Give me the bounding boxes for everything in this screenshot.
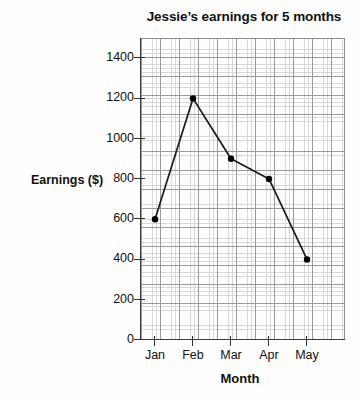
x-axis-title: Month xyxy=(185,371,295,386)
chart-title: Jessie’s earnings for 5 months xyxy=(132,9,356,24)
y-tick-label: 400 xyxy=(88,252,134,265)
plot-border xyxy=(141,38,345,339)
y-tick-mark xyxy=(134,218,145,219)
y-tick-label: 0 xyxy=(88,333,134,346)
y-tick-label: 1200 xyxy=(88,91,134,104)
x-tick-mark xyxy=(192,336,193,346)
plot-area xyxy=(140,38,345,340)
y-tick-mark xyxy=(134,178,145,179)
x-tick-label: May xyxy=(285,348,329,362)
y-tick-mark xyxy=(134,259,145,260)
chart-page: Jessie’s earnings for 5 months Earnings … xyxy=(0,0,360,403)
y-tick-label: 1400 xyxy=(88,51,134,64)
x-tick-mark xyxy=(230,336,231,346)
minor-gridlines xyxy=(141,38,345,339)
y-tick-mark xyxy=(134,98,145,99)
x-tick-mark xyxy=(154,336,155,346)
y-tick-mark xyxy=(134,57,145,58)
y-tick-label: 200 xyxy=(88,293,134,306)
major-gridlines xyxy=(141,38,345,339)
y-tick-mark xyxy=(134,138,145,139)
x-tick-mark xyxy=(268,336,269,346)
y-tick-label: 1000 xyxy=(88,132,134,145)
y-tick-label: 800 xyxy=(88,172,134,185)
x-tick-mark xyxy=(306,336,307,346)
y-tick-mark xyxy=(134,299,145,300)
y-tick-mark xyxy=(134,339,145,340)
y-tick-label: 600 xyxy=(88,212,134,225)
